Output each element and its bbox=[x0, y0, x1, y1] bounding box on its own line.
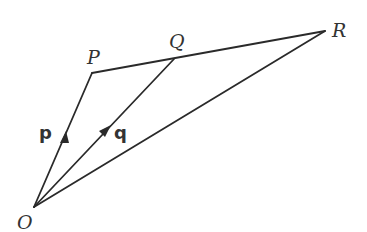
point-label-p: P bbox=[86, 46, 101, 68]
point-label-o: O bbox=[17, 211, 33, 232]
arrowhead-p-icon bbox=[60, 131, 69, 143]
vector-label-p: p bbox=[39, 122, 52, 143]
vector-diagram: O P Q R p q bbox=[0, 0, 367, 232]
point-label-q: Q bbox=[169, 30, 185, 52]
point-label-r: R bbox=[331, 19, 346, 41]
vector-label-q: q bbox=[114, 122, 127, 143]
